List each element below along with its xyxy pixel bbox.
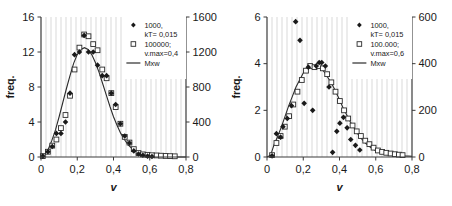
data-point-square (54, 137, 59, 142)
data-point-square (63, 113, 68, 118)
data-point-square (72, 67, 77, 72)
y-tick-label-left: 12 (22, 46, 34, 58)
legend-label: v.max=0,6 (370, 49, 404, 58)
y-tick-label-left: 4 (28, 116, 34, 128)
legend-label: 100.000; (370, 40, 399, 49)
x-tick-label: 0,4 (332, 163, 347, 175)
y-tick-label-right: 600 (419, 11, 437, 23)
data-point-square (333, 89, 338, 94)
y-tick-label-left: 6 (254, 11, 260, 23)
data-point-square (350, 123, 355, 128)
data-point-square (172, 154, 177, 159)
x-tick-label: 0,2 (70, 163, 85, 175)
y-axis-title: freq. (4, 76, 16, 99)
data-point-square (299, 78, 304, 83)
legend-label: kT= 0,015 (370, 30, 403, 39)
data-point-square (325, 72, 330, 77)
y-tick-label-left: 4 (254, 57, 260, 69)
x-tick-label: 0,6 (142, 163, 157, 175)
data-point-diamond (310, 108, 316, 114)
y-axis-title: freq. (230, 76, 242, 99)
y-tick-label-right: 400 (419, 57, 437, 69)
legend-marker-square-icon (357, 42, 362, 47)
legend-label: Mxw (370, 59, 386, 68)
x-tick-label: 0,2 (296, 163, 311, 175)
y-tick-label-right: 0 (419, 151, 425, 163)
data-point-diamond (348, 137, 354, 143)
data-point-square (295, 89, 300, 94)
y-tick-label-right: 0 (193, 151, 199, 163)
legend-label: v.max=0,4 (144, 49, 178, 58)
data-point-diamond (330, 150, 336, 156)
chart-left: 048121604008001200160000,20,40,60,8vfreq… (0, 0, 226, 206)
y-tick-label-left: 0 (28, 151, 34, 163)
data-point-diamond (63, 119, 69, 125)
chart-panel-right: 0246020040060000,20,40,60,8vfreq.1000,kT… (226, 0, 452, 206)
x-tick-label: 0,8 (178, 163, 193, 175)
legend-label: kT= 0,015 (144, 30, 177, 39)
data-point-square (329, 80, 334, 85)
chart-right: 0246020040060000,20,40,60,8vfreq.1000,kT… (226, 0, 452, 206)
data-point-diamond (58, 131, 64, 137)
legend-label: Mxw (144, 59, 160, 68)
y-tick-label-right: 400 (193, 116, 211, 128)
data-point-square (86, 34, 91, 39)
x-axis-title: v (110, 181, 117, 193)
data-point-square (346, 116, 351, 121)
data-point-diamond (344, 125, 350, 131)
figure-container: 048121604008001200160000,20,40,60,8vfreq… (0, 0, 452, 206)
data-point-square (168, 154, 173, 159)
data-point-square (59, 126, 64, 131)
x-tick-label: 0,8 (404, 163, 419, 175)
series-line-mxw (267, 66, 412, 157)
data-point-diamond (293, 19, 299, 25)
data-point-square (100, 67, 105, 72)
y-tick-label-right: 200 (419, 104, 437, 116)
chart-panel-left: 048121604008001200160000,20,40,60,8vfreq… (0, 0, 226, 206)
legend: 1000,kT= 0,015100000;v.max=0,4Mxw (124, 17, 186, 79)
data-point-square (358, 134, 363, 139)
legend-label: 1000, (144, 21, 163, 30)
data-point-square (91, 42, 96, 47)
data-point-square (342, 108, 347, 113)
data-point-square (354, 129, 359, 134)
y-tick-label-right: 1200 (193, 46, 217, 58)
x-tick-label: 0 (38, 163, 44, 175)
legend-label: 1000, (370, 21, 389, 30)
y-tick-label-left: 0 (254, 151, 260, 163)
y-tick-label-right: 800 (193, 81, 211, 93)
data-point-square (274, 141, 279, 146)
x-axis-title: v (336, 181, 343, 193)
legend: 1000,kT= 0,015100.000;v.max=0,6Mxw (350, 17, 412, 79)
x-tick-label: 0,6 (368, 163, 383, 175)
x-tick-label: 0 (264, 163, 270, 175)
y-tick-label-left: 8 (28, 81, 34, 93)
y-tick-label-left: 2 (254, 104, 260, 116)
data-point-diamond (353, 143, 359, 149)
legend-label: 100000; (144, 40, 171, 49)
data-point-diamond (334, 129, 340, 135)
y-tick-label-left: 16 (22, 11, 34, 23)
legend-marker-square-icon (131, 42, 136, 47)
y-tick-label-right: 1600 (193, 11, 217, 23)
data-point-square (337, 99, 342, 104)
x-tick-label: 0,4 (106, 163, 121, 175)
